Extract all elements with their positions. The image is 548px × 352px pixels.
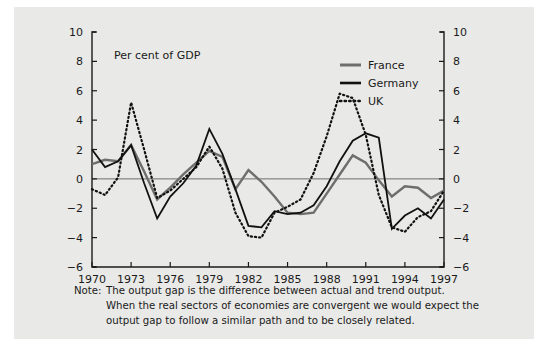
y-tick-label-left: 4	[76, 114, 83, 127]
chart-note: Note: The output gap is the difference b…	[74, 285, 479, 326]
note-line-2: When the real sectors of economies are c…	[106, 300, 479, 311]
y-tick-label-right: 8	[453, 55, 460, 68]
output-gap-line-chart: 1086420−2−4−6 1086420−2−4−6 197019731976…	[14, 7, 534, 339]
series-line-france	[92, 145, 444, 214]
chart-legend: France Germany UK	[340, 59, 419, 108]
y-tick-label-right: 0	[453, 173, 460, 186]
legend-label-france: France	[368, 59, 405, 72]
note-line-3: output gap to follow a similar path and …	[106, 315, 415, 326]
y-tick-label-left: 8	[76, 55, 83, 68]
series-line-uk	[92, 94, 444, 238]
y-tick-label-left: −4	[67, 232, 83, 245]
y-tick-label-left: 2	[76, 144, 83, 157]
legend-label-germany: Germany	[368, 77, 419, 90]
y-axis-labels-right: 1086420−2−4−6	[453, 26, 469, 274]
y-tick-label-right: −4	[453, 232, 469, 245]
y-axis-labels-left: 1086420−2−4−6	[67, 26, 83, 274]
y-axis-ticks-right	[439, 32, 444, 267]
y-tick-label-right: 10	[453, 26, 467, 39]
y-tick-label-left: 10	[69, 26, 83, 39]
note-label: Note:	[74, 285, 102, 296]
figure-panel: 1086420−2−4−6 1086420−2−4−6 197019731976…	[14, 7, 534, 339]
chart-subtitle: Per cent of GDP	[114, 49, 201, 62]
y-tick-label-right: 2	[453, 144, 460, 157]
legend-label-uk: UK	[368, 95, 384, 108]
y-tick-label-right: 4	[453, 114, 460, 127]
y-tick-label-left: 6	[76, 85, 83, 98]
note-line-1: The output gap is the difference between…	[105, 285, 445, 296]
y-tick-label-right: 6	[453, 85, 460, 98]
y-tick-label-left: −2	[67, 202, 83, 215]
y-tick-label-left: 0	[76, 173, 83, 186]
x-axis-ticks	[92, 262, 444, 267]
y-tick-label-right: −2	[453, 202, 469, 215]
